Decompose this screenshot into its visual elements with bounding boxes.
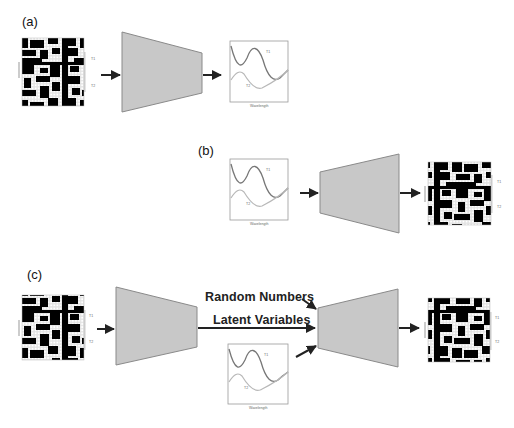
encoder-trapezoid-c: [116, 287, 197, 365]
plot-b-xlabel: Wavelength: [250, 222, 268, 226]
grid-c-out-side-label-2: T2: [495, 340, 499, 344]
plot-a-xlabel: Wavelength: [250, 104, 268, 108]
network-trapezoid-a: [122, 32, 202, 112]
plot-c-xlabel: Wavelength: [249, 406, 267, 410]
grid-b-side-label-1: T1: [497, 180, 501, 184]
plot-a-curve2-label: T2: [246, 84, 250, 88]
network-trapezoid-b: [320, 154, 399, 233]
latent-variables-label: Latent Variables: [213, 313, 310, 327]
panel-b: [230, 154, 493, 233]
grid-a-side-label-2: T2: [91, 84, 95, 88]
spectra-plot-c: [228, 344, 288, 404]
grid-a-side-label-1: T1: [91, 57, 95, 61]
plot-b-curve1-label: T1: [266, 168, 270, 172]
structure-grid-c-input: [18, 295, 86, 360]
panel-a: [18, 32, 288, 112]
structure-grid-a: [18, 38, 86, 106]
plot-a-curve1-label: T1: [266, 50, 270, 54]
structure-grid-b: [424, 162, 493, 225]
plot-c-curve1-label: T1: [264, 353, 268, 357]
plot-c-curve2-label: T2: [244, 386, 248, 390]
decoder-trapezoid-c: [318, 289, 398, 367]
plot-b-curve2-label: T2: [246, 202, 250, 206]
grid-c-in-side-label-2: T2: [89, 340, 93, 344]
spectra-input-arrow: [296, 346, 316, 357]
spectra-plot-a: [230, 41, 288, 102]
diagram-canvas: [0, 0, 514, 428]
spectra-plot-b: [230, 159, 288, 220]
grid-c-in-side-label-1: T1: [89, 314, 93, 318]
random-numbers-label: Random Numbers: [205, 290, 314, 304]
grid-c-out-side-label-1: T1: [495, 316, 499, 320]
structure-grid-c-output: [424, 298, 492, 362]
grid-b-side-label-2: T2: [497, 205, 501, 209]
panel-c: [18, 287, 492, 404]
